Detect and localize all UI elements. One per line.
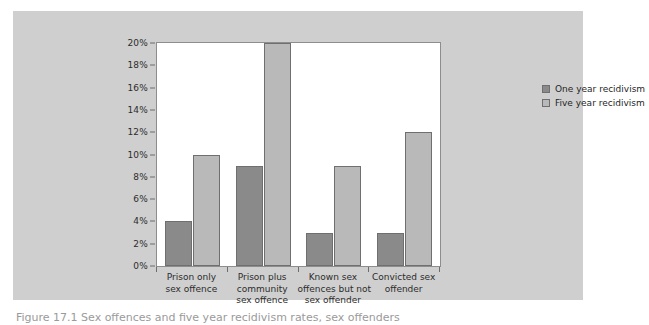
y-axis-tick-mark: [150, 266, 155, 267]
x-axis-label: Prison pluscommunitysex offence: [227, 272, 298, 307]
x-axis-label: Convicted sexoffender: [368, 272, 439, 295]
y-axis-tick-label: 18%: [127, 60, 148, 70]
y-axis-tick-label: 20%: [127, 38, 148, 48]
y-axis-tick-label: 8%: [133, 172, 148, 182]
bar-group: [157, 43, 228, 266]
bar-one-year: [165, 221, 192, 266]
bar-group: [228, 43, 299, 266]
x-axis-label-line: community: [227, 284, 298, 296]
y-axis-tick-label: 14%: [127, 105, 148, 115]
y-axis-tick-mark: [150, 109, 155, 110]
y-axis-tick-label: 10%: [127, 150, 148, 160]
y-axis-tick-mark: [150, 154, 155, 155]
x-axis-label-line: sex offence: [227, 295, 298, 307]
y-axis-tick-mark: [150, 176, 155, 177]
y-axis-tick-mark: [150, 243, 155, 244]
x-axis-label-line: offender: [368, 284, 439, 296]
bar-group: [369, 43, 440, 266]
legend-item-one-year: One year recidivism: [542, 82, 649, 95]
x-axis-label-line: Convicted sex: [368, 272, 439, 284]
y-axis-tick-label: 4%: [133, 216, 148, 226]
figure-panel: 0%2%4%6%8%10%12%14%16%18%20% One year re…: [13, 11, 583, 300]
y-axis-tick-label: 6%: [133, 194, 148, 204]
bar-one-year: [377, 233, 404, 266]
bars-layer: [157, 43, 440, 266]
x-axis-labels: Prison onlysex offencePrison pluscommuni…: [156, 272, 441, 316]
y-axis-tick-label: 2%: [133, 239, 148, 249]
y-axis-tick-mark: [150, 65, 155, 66]
y-axis-tick-mark: [150, 87, 155, 88]
x-axis-label-line: Prison only: [156, 272, 227, 284]
y-axis-tick-mark: [150, 199, 155, 200]
y-axis: 0%2%4%6%8%10%12%14%16%18%20%: [108, 42, 155, 267]
y-axis-tick-label: 0%: [133, 261, 148, 271]
legend-item-five-year: Five year recidivism: [542, 96, 649, 109]
bar-one-year: [236, 166, 263, 266]
bar-one-year: [306, 233, 333, 266]
legend-label-one-year: One year recidivism: [555, 84, 645, 94]
x-axis-label-line: Known sex: [298, 272, 369, 284]
y-axis-tick-mark: [150, 221, 155, 222]
chart-legend: One year recidivism Five year recidivism: [542, 82, 649, 110]
figure-caption: Figure 17.1 Sex offences and five year r…: [16, 311, 576, 325]
x-axis-label-line: offences but not: [298, 284, 369, 296]
legend-swatch-icon-one-year: [542, 85, 550, 93]
bar-five-year: [193, 155, 220, 267]
legend-label-five-year: Five year recidivism: [555, 98, 645, 108]
bar-five-year: [405, 132, 432, 266]
bar-five-year: [264, 43, 291, 266]
legend-swatch-icon-five-year: [542, 99, 550, 107]
y-axis-tick-label: 16%: [127, 83, 148, 93]
x-axis-label: Known sexoffences but notsex offender: [298, 272, 369, 307]
x-axis-label-line: sex offender: [298, 295, 369, 307]
y-axis-tick-mark: [150, 132, 155, 133]
y-axis-tick-mark: [150, 43, 155, 44]
bar-five-year: [334, 166, 361, 266]
x-axis-label: Prison onlysex offence: [156, 272, 227, 295]
x-axis-label-line: Prison plus: [227, 272, 298, 284]
y-axis-tick-label: 12%: [127, 127, 148, 137]
x-axis-label-line: sex offence: [156, 284, 227, 296]
bar-group: [299, 43, 370, 266]
